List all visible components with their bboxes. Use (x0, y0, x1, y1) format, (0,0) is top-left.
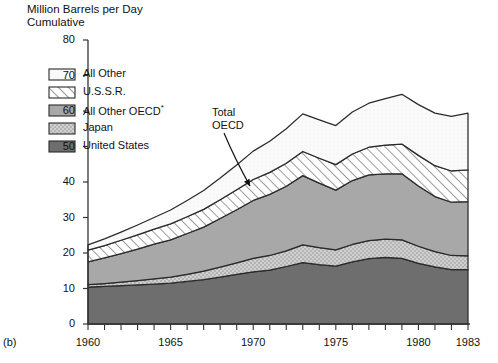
legend-swatch-ussr (49, 87, 75, 98)
y-tick-label: 70 (49, 69, 75, 81)
area-layers (88, 94, 468, 324)
legend-footnote-marker: * (161, 103, 164, 112)
y-tick-label: 50 (49, 140, 75, 152)
panel-label: (b) (3, 336, 16, 348)
chart-title-line2: Cumulative (27, 16, 85, 30)
legend-label-all_other: All Other (83, 67, 126, 79)
x-tick-label: 1983 (445, 336, 491, 348)
legend-label-united_states: United States (83, 139, 149, 151)
x-tick-marks (88, 324, 468, 330)
legend-label-ussr: U.S.S.R. (83, 85, 126, 97)
x-tick-label: 1980 (395, 336, 441, 348)
x-tick-label: 1975 (313, 336, 359, 348)
y-tick-marks (83, 40, 88, 324)
y-tick-label: 10 (49, 282, 75, 294)
annotation-oecd: OECD (212, 119, 244, 131)
y-tick-label: 30 (49, 211, 75, 223)
chart-title-line1: Million Barrels per Day (27, 3, 143, 17)
y-tick-label: 60 (49, 104, 75, 116)
x-tick-label: 1960 (65, 336, 111, 348)
annotation-total: Total (212, 106, 235, 118)
y-tick-label: 0 (49, 317, 75, 329)
y-tick-label: 20 (49, 246, 75, 258)
x-tick-label: 1965 (148, 336, 194, 348)
legend-label-japan: Japan (83, 121, 113, 133)
y-tick-label: 80 (49, 33, 75, 45)
legend-swatch-japan (49, 123, 75, 134)
y-tick-label: 40 (49, 175, 75, 187)
x-tick-label: 1970 (230, 336, 276, 348)
legend-label-other_oecd: All Other OECD* (83, 103, 164, 117)
